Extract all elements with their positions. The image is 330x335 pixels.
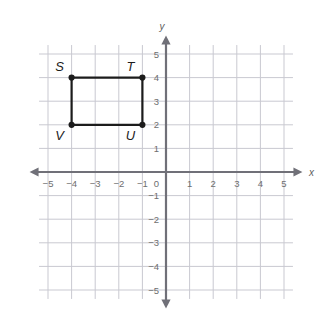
x-tick-label: 5 (281, 178, 286, 189)
x-tick-label: −5 (43, 178, 54, 189)
x-axis-arrow-left (30, 167, 39, 176)
y-axis-arrow-down (161, 299, 170, 308)
x-tick-label: 3 (234, 178, 239, 189)
x-tick-label: −2 (113, 178, 124, 189)
x-tick-label: 4 (258, 178, 263, 189)
y-tick-label: −4 (148, 261, 159, 272)
vertex-label-s: S (55, 59, 64, 74)
y-tick-label: 5 (154, 49, 159, 60)
x-axis-name: x (308, 167, 315, 178)
x-tick-label: −1 (137, 178, 148, 189)
coordinate-plane-svg: −5−4−3−2−11234554321−1−2−3−4−50 xy STUV (0, 0, 330, 335)
x-tick-label: 2 (211, 178, 216, 189)
x-tick-label: 1 (187, 178, 192, 189)
y-tick-label: 4 (154, 72, 159, 83)
coordinate-plane-figure: −5−4−3−2−11234554321−1−2−3−4−50 xy STUV (0, 0, 330, 335)
y-axis-arrow-up (161, 36, 170, 45)
vertex-label-v: V (55, 128, 65, 143)
y-tick-label: −3 (148, 237, 159, 248)
y-tick-label: 1 (154, 143, 159, 154)
y-tick-label: 2 (154, 119, 159, 130)
y-tick-label: −5 (148, 285, 159, 296)
y-tick-label: −1 (148, 190, 159, 201)
origin-label: 0 (154, 178, 159, 189)
y-tick-label: −2 (148, 214, 159, 225)
x-tick-label: −3 (90, 178, 101, 189)
vertex-point-u (139, 122, 145, 128)
y-tick-label: 3 (154, 96, 159, 107)
vertex-point-v (69, 122, 75, 128)
x-tick-label: −4 (66, 178, 77, 189)
vertex-label-u: U (126, 128, 136, 143)
y-axis-name: y (159, 21, 166, 32)
vertex-label-t: T (126, 59, 135, 74)
vertex-point-s (69, 75, 75, 81)
vertex-point-t (139, 75, 145, 81)
x-axis-arrow-right (293, 167, 302, 176)
